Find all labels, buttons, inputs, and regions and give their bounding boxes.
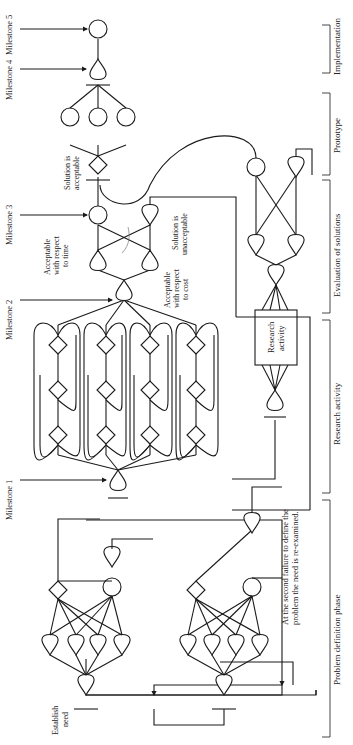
research-box-label-2: activity	[276, 325, 286, 351]
evaluation-network: Milestone 2 Acceptable with respect to t…	[4, 156, 236, 340]
milestone-5-label: Milestone 5	[4, 15, 14, 55]
label-establish-need-2: need	[61, 712, 70, 727]
label-second-failure-1: At the second failure to define the	[280, 509, 290, 625]
research-loops	[34, 300, 218, 470]
research-box-label-1: Research	[266, 321, 276, 353]
label-solution-acceptable-2: acceptable	[72, 156, 81, 190]
label-acceptable-time-2: with respect	[52, 235, 61, 275]
milestone-1-label: Milestone 1	[4, 480, 14, 520]
phase-label-problem-definition: Problem definition phase	[332, 595, 342, 685]
label-acceptable-cost-2: with respect	[172, 268, 181, 308]
label-second-failure-2: problem the need is re-examined.	[290, 511, 300, 625]
phase-label-implementation: Implementation	[332, 18, 342, 75]
prototype-network: Milestone 4 Milestone 5	[4, 15, 135, 174]
label-acceptable-cost-1: Acceptable	[163, 272, 172, 308]
label-unacceptable-2: unacceptable	[180, 213, 189, 255]
problem-definition-network: Establish need	[42, 487, 316, 735]
label-acceptable-cost-3: to cost	[181, 278, 190, 300]
phase-label-evaluation: Evaluation of solutions	[332, 213, 342, 297]
label-establish-need-1: Establish	[51, 706, 60, 735]
research-activity-branch: Research activity	[100, 136, 312, 510]
milestone-1-node: Milestone 1	[4, 470, 128, 520]
phase-label-research-activity: Research activity	[332, 382, 342, 445]
project-network-diagram: Problem definition phase Research activi…	[0, 0, 353, 745]
milestone-2-label: Milestone 2	[4, 300, 14, 340]
label-unacceptable-1: Solution is	[171, 216, 180, 250]
milestone-3-label: Milestone 3	[4, 205, 14, 245]
label-solution-acceptable-1: Solution is	[63, 156, 72, 190]
milestone-4-label: Milestone 4	[4, 59, 14, 100]
phase-brackets: Problem definition phase Research activi…	[322, 18, 342, 737]
label-acceptable-time-1: Acceptable	[43, 239, 52, 275]
phase-label-prototype: Prototype	[332, 118, 342, 153]
label-acceptable-time-3: to time	[61, 244, 70, 267]
